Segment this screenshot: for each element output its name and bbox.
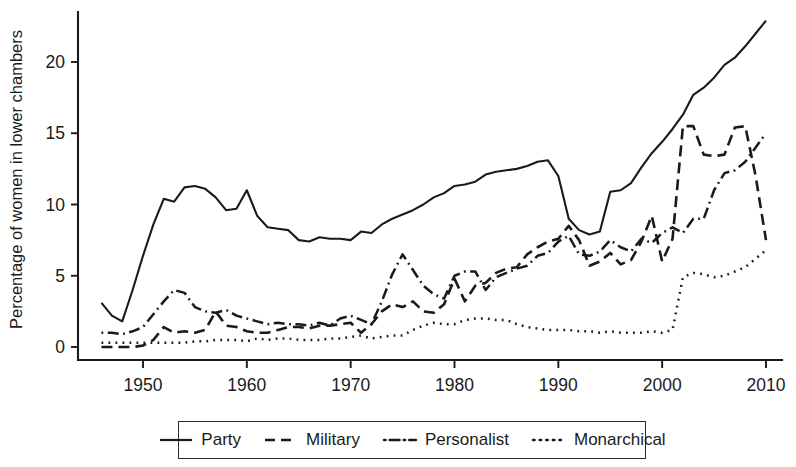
x-tick-label: 1950: [124, 375, 163, 395]
line-chart: 051015201950196019701980199020002010Perc…: [0, 0, 796, 467]
legend-swatch-party: [158, 434, 194, 446]
x-tick-label: 2010: [747, 375, 786, 395]
x-tick-label: 1960: [227, 375, 266, 395]
series-line-party: [101, 21, 766, 322]
x-tick-label: 1980: [435, 375, 474, 395]
y-tick-label: 5: [55, 266, 65, 286]
chart-legend: Party Military Personalist Monarchical: [178, 421, 646, 459]
x-tick-label: 2000: [643, 375, 682, 395]
legend-item: Personalist: [382, 430, 509, 450]
legend-swatch-personalist: [382, 434, 418, 446]
series-line-military: [101, 126, 766, 347]
legend-swatch-monarchical: [531, 434, 567, 446]
y-tick-label: 20: [46, 52, 66, 72]
legend-item: Military: [263, 430, 360, 450]
y-tick-label: 0: [55, 337, 65, 357]
legend-label-military: Military: [306, 430, 360, 450]
legend-label-monarchical: Monarchical: [574, 430, 666, 450]
figure-container: 051015201950196019701980199020002010Perc…: [0, 0, 796, 467]
series-line-monarchical: [101, 250, 766, 343]
y-axis: 05101520: [46, 52, 78, 357]
legend-item: Party: [158, 430, 241, 450]
y-tick-label: 10: [46, 195, 66, 215]
x-axis: 1950196019701980199020002010: [124, 360, 786, 395]
x-tick-label: 1970: [331, 375, 370, 395]
y-tick-label: 15: [46, 123, 65, 143]
legend-label-party: Party: [201, 430, 241, 450]
legend-item: Monarchical: [531, 430, 666, 450]
y-axis-title: Percentage of women in lower chambers: [7, 30, 25, 329]
legend-swatch-military: [263, 434, 299, 446]
series-line-personalist: [101, 133, 766, 334]
x-tick-label: 1990: [539, 375, 578, 395]
legend-label-personalist: Personalist: [425, 430, 509, 450]
